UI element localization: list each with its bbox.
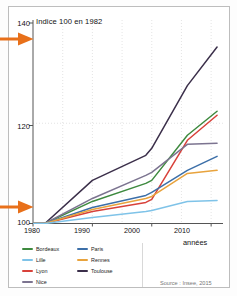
legend-label: Bordeaux bbox=[36, 246, 59, 252]
legend-item-bordeaux[interactable]: Bordeaux bbox=[22, 243, 59, 254]
gridlines bbox=[63, 20, 211, 224]
legend-label: Toulouse bbox=[91, 268, 113, 274]
x-tick-label-1980: 1980 bbox=[17, 226, 47, 235]
legend-swatch-icon bbox=[77, 248, 88, 250]
source-caption: Source : Insee, 2015 bbox=[160, 280, 212, 286]
legend-swatch-icon bbox=[77, 270, 88, 272]
legend-swatch-icon bbox=[22, 270, 33, 272]
legend-column-right: ParisRennesToulouse bbox=[77, 243, 113, 276]
x-tick-label-2010: 2010 bbox=[167, 226, 197, 235]
legend-item-nice[interactable]: Nice bbox=[22, 276, 59, 287]
annotation-arrow-top-icon bbox=[0, 32, 34, 46]
legend-item-lyon[interactable]: Lyon bbox=[22, 265, 59, 276]
legend-item-toulouse[interactable]: Toulouse bbox=[77, 265, 113, 276]
x-axis-label: années bbox=[183, 238, 207, 247]
legend-label: Lyon bbox=[36, 268, 48, 274]
legend-swatch-icon bbox=[77, 259, 88, 261]
legend-label: Lille bbox=[36, 257, 46, 263]
legend-swatch-icon bbox=[22, 248, 33, 250]
y-tick-label-140: 140 bbox=[10, 19, 30, 28]
legend-item-lille[interactable]: Lille bbox=[22, 254, 59, 265]
chart-legend: BordeauxLilleLyonNice ParisRennesToulous… bbox=[22, 243, 143, 287]
figure-chart-indices-immobiliers: Indice 100 en 1982 140 120 100 1980 1990… bbox=[0, 0, 237, 296]
series-lines bbox=[33, 47, 217, 223]
legend-swatch-icon bbox=[22, 259, 33, 261]
x-tick-label-1990: 1990 bbox=[67, 226, 97, 235]
legend-label: Rennes bbox=[91, 257, 110, 263]
x-tick-label-2000: 2000 bbox=[117, 226, 147, 235]
legend-swatch-icon bbox=[22, 281, 33, 283]
legend-item-rennes[interactable]: Rennes bbox=[77, 254, 113, 265]
annotation-arrow-bottom-icon bbox=[0, 200, 34, 214]
legend-label: Nice bbox=[36, 279, 47, 285]
legend-label: Paris bbox=[91, 246, 103, 252]
legend-column-left: BordeauxLilleLyonNice bbox=[22, 243, 59, 287]
chart-axis-title: Indice 100 en 1982 bbox=[36, 17, 102, 26]
legend-item-paris[interactable]: Paris bbox=[77, 243, 113, 254]
y-tick-label-120: 120 bbox=[10, 122, 30, 131]
